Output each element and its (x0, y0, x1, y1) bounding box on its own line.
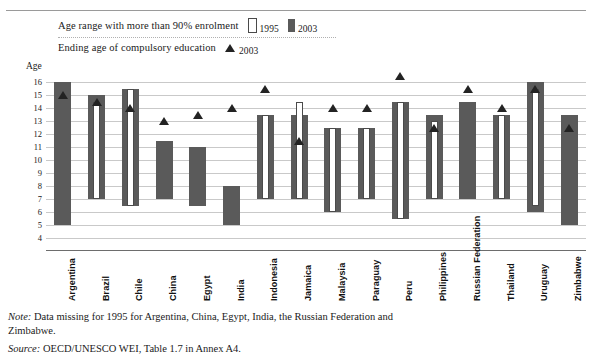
bar-1995-brazil (93, 102, 100, 200)
bar-2003-egypt (189, 147, 206, 206)
y-axis-tick-label: 10 (26, 156, 42, 165)
bar-1995-paraguay (363, 128, 370, 200)
x-axis-category-label: Malaysia (337, 263, 347, 301)
note-line: Note: Data missing for 1995 for Argentin… (8, 310, 428, 337)
triangle-icon (395, 72, 405, 80)
y-axis-tick-label: 16 (26, 78, 42, 87)
triangle-icon (193, 111, 203, 119)
bar-1995-thailand (498, 115, 505, 200)
x-axis-category-label: India (236, 279, 246, 301)
y-axis-tick-label: 8 (26, 182, 42, 191)
y-axis-tick-label: 5 (26, 221, 42, 230)
x-axis-category-label: Russian Federation (472, 216, 482, 301)
bar-2003-china (156, 141, 173, 200)
triangle-icon (530, 85, 540, 93)
bar-2003-argentina (54, 82, 71, 225)
triangle-icon (92, 98, 102, 106)
x-axis-category-label: Thailand (506, 263, 516, 301)
plot-area: 16151413121110987654 (0, 0, 592, 250)
triangle-icon (227, 104, 237, 112)
chart-page: Age range with more than 90% enrolment 1… (0, 0, 592, 361)
gridline (46, 225, 586, 226)
triangle-icon (564, 124, 574, 132)
triangle-icon (328, 104, 338, 112)
gridline (46, 212, 586, 213)
y-axis-tick-label: 4 (26, 234, 42, 243)
x-axis-category-label: Argentina (67, 258, 77, 301)
triangle-icon (260, 85, 270, 93)
source-text: OECD/UNESCO WEI, Table 1.7 in Annex A4. (40, 343, 241, 354)
triangle-icon (159, 117, 169, 125)
x-axis-category-label: Egypt (202, 275, 212, 301)
x-axis-category-label: Indonesia (269, 258, 279, 301)
source-lead: Source: (8, 343, 40, 354)
x-axis-category-label: Peru (404, 281, 414, 301)
triangle-icon (58, 91, 68, 99)
x-axis-category-label: Philippines (438, 252, 448, 301)
note-text: Data missing for 1995 for Argentina, Chi… (8, 311, 393, 336)
x-axis-category-label: Jamaica (303, 265, 313, 301)
x-axis-category-label: China (168, 275, 178, 301)
gridline (46, 238, 586, 239)
y-axis-tick-label: 14 (26, 104, 42, 113)
triangle-icon (362, 104, 372, 112)
bar-1995-uruguay (532, 89, 539, 206)
bar-1995-indonesia (262, 115, 269, 200)
bar-2003-india (223, 186, 240, 225)
note-lead: Note: (8, 311, 31, 322)
source-line: Source: OECD/UNESCO WEI, Table 1.7 in An… (8, 342, 428, 356)
triangle-icon (125, 104, 135, 112)
y-axis-tick-label: 12 (26, 130, 42, 139)
axis-baseline (46, 250, 586, 251)
triangle-icon (294, 137, 304, 145)
bar-2003-russian-federation (459, 102, 476, 200)
y-axis-tick-label: 9 (26, 169, 42, 178)
gridline (46, 82, 586, 83)
x-axis-category-label: Brazil (101, 276, 111, 301)
bar-1995-jamaica (296, 102, 303, 200)
bar-1995-malaysia (329, 128, 336, 213)
triangle-icon (463, 85, 473, 93)
bar-1995-peru (397, 102, 404, 219)
triangle-icon (497, 104, 507, 112)
y-axis-tick-label: 7 (26, 195, 42, 204)
y-axis-tick-label: 15 (26, 91, 42, 100)
footnotes: Note: Data missing for 1995 for Argentin… (8, 310, 428, 356)
y-axis-tick-label: 11 (26, 143, 42, 152)
x-axis-category-label: Chile (134, 278, 144, 301)
y-axis-tick-label: 6 (26, 208, 42, 217)
triangle-icon (429, 124, 439, 132)
y-axis-tick-label: 13 (26, 117, 42, 126)
x-axis-category-label: Zimbabwe (573, 256, 583, 301)
x-axis-category-label: Paraguay (371, 260, 381, 301)
x-axis-category-label: Uruguay (539, 264, 549, 301)
bar-1995-philippines (431, 121, 438, 199)
